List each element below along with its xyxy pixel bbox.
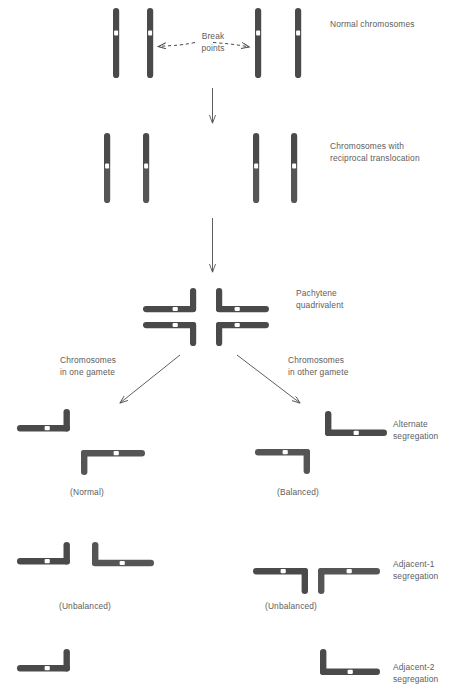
quadrivalent-arm-upper-right bbox=[216, 288, 269, 312]
adjacent2-right-chromosome bbox=[320, 649, 380, 675]
adjacent-2-segregation-label: Adjacent-2 segregation bbox=[393, 662, 460, 685]
adjacent1-left-chromosome-2 bbox=[92, 542, 154, 566]
quadrivalent-arm-upper-left bbox=[143, 288, 196, 312]
row-normal-chromosomes bbox=[113, 8, 301, 123]
row-translocated-chromosomes bbox=[104, 133, 297, 272]
reciprocal-translocation-label: Chromosomes with reciprocal translocatio… bbox=[330, 141, 452, 164]
pachytene-quadrivalent-label: Pachytene quadrivalent bbox=[296, 288, 406, 311]
chromosome-2a bbox=[255, 8, 261, 78]
chromosome-1b bbox=[147, 8, 153, 78]
break-points-label: Break points bbox=[183, 31, 243, 54]
quadrivalent-arm-lower-left bbox=[143, 322, 196, 346]
translocated-chromosome-2a bbox=[253, 133, 259, 203]
other-gamete-label: Chromosomes in other gamete bbox=[288, 355, 403, 378]
unbalanced-right-outcome-label: (Unbalanced) bbox=[246, 601, 336, 613]
alternate-left-chromosome-2 bbox=[81, 450, 145, 475]
adjacent1-right-chromosome-2 bbox=[318, 568, 380, 594]
translocated-chromosome-2b bbox=[291, 133, 297, 203]
one-gamete-label: Chromosomes in one gamete bbox=[60, 355, 170, 378]
row-adjacent-1-segregation bbox=[17, 542, 380, 594]
adjacent2-left-chromosome bbox=[17, 649, 70, 671]
balanced-outcome-label: (Balanced) bbox=[258, 487, 338, 499]
quadrivalent-arm-lower-right bbox=[216, 322, 269, 346]
alternate-right-chromosome-2 bbox=[255, 449, 310, 474]
translocated-chromosome-1b bbox=[143, 133, 149, 203]
adjacent1-left-chromosome-1 bbox=[17, 542, 70, 564]
alternate-right-chromosome-1 bbox=[325, 411, 387, 436]
chromosome-1a bbox=[113, 8, 119, 78]
row-adjacent-2-segregation bbox=[17, 649, 380, 675]
normal-outcome-label: (Normal) bbox=[47, 487, 127, 499]
row-pachytene-quadrivalent bbox=[120, 288, 300, 403]
alternate-left-chromosome-1 bbox=[17, 409, 70, 431]
normal-chromosomes-label: Normal chromosomes bbox=[330, 19, 450, 31]
unbalanced-left-outcome-label: (Unbalanced) bbox=[40, 601, 130, 613]
chromosome-2b bbox=[295, 8, 301, 78]
translocation-diagram bbox=[0, 0, 460, 688]
adjacent-1-segregation-label: Adjacent-1 segregation bbox=[393, 559, 460, 582]
row-alternate-segregation bbox=[17, 409, 387, 475]
translocated-chromosome-1a bbox=[104, 133, 110, 203]
adjacent1-right-chromosome-1 bbox=[253, 568, 308, 594]
alternate-segregation-label: Alternate segregation bbox=[393, 419, 460, 442]
